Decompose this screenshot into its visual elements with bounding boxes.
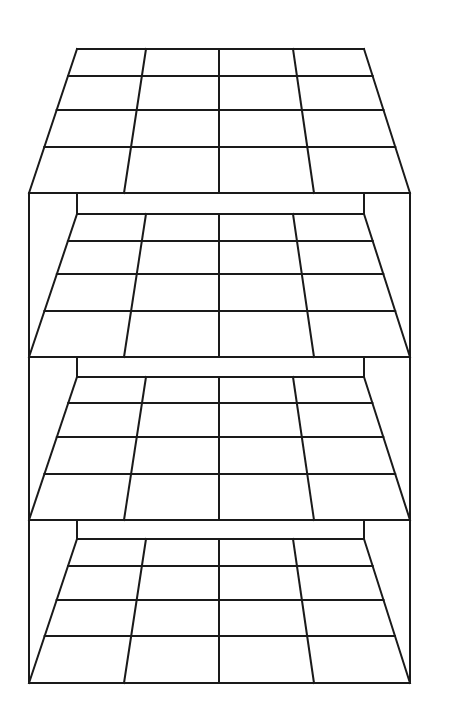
layer-3 — [29, 377, 410, 520]
grid-column-line — [293, 539, 314, 683]
layer-4 — [29, 539, 410, 683]
grid-column-line — [29, 214, 77, 357]
grid-column-line — [124, 214, 146, 357]
diagram-svg — [0, 0, 468, 721]
layer-1 — [29, 49, 410, 193]
grid-layers — [29, 49, 410, 683]
stacked-grid-diagram — [0, 0, 468, 721]
grid-column-line — [29, 49, 77, 193]
layer-2 — [29, 214, 410, 357]
grid-column-line — [364, 377, 410, 520]
grid-column-line — [29, 539, 77, 683]
grid-column-line — [29, 377, 77, 520]
grid-column-line — [293, 377, 314, 520]
grid-column-line — [124, 49, 146, 193]
grid-column-line — [364, 49, 410, 193]
grid-column-line — [293, 49, 314, 193]
grid-column-line — [293, 214, 314, 357]
grid-column-line — [364, 214, 410, 357]
grid-column-line — [364, 539, 410, 683]
grid-column-line — [124, 539, 146, 683]
grid-column-line — [124, 377, 146, 520]
